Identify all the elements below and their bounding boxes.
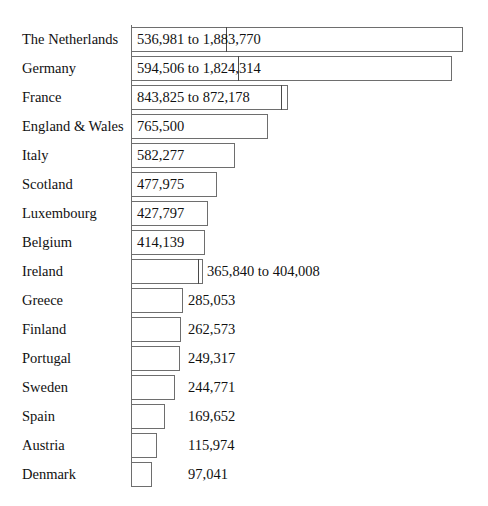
value-label: 97,041 (188, 460, 228, 489)
chart-row: Ireland365,840 to 404,008 (0, 257, 488, 286)
bar[interactable] (131, 433, 157, 458)
category-label: Belgium (22, 228, 126, 257)
chart-row: Sweden244,771 (0, 373, 488, 402)
chart-row: Spain169,652 (0, 402, 488, 431)
bar-chart: The Netherlands536,981 to 1,883,770Germa… (0, 0, 488, 506)
bar[interactable] (131, 404, 165, 429)
value-label: 582,277 (137, 141, 184, 170)
chart-row: France843,825 to 872,178 (0, 83, 488, 112)
bar-range-lower-tick (198, 259, 199, 284)
value-label: 414,139 (137, 228, 184, 257)
bar[interactable] (131, 462, 152, 487)
bar[interactable] (131, 375, 175, 400)
category-label: Finland (22, 315, 126, 344)
chart-row: Scotland477,975 (0, 170, 488, 199)
category-label: Italy (22, 141, 126, 170)
bar[interactable] (131, 317, 181, 342)
bar[interactable] (131, 346, 180, 371)
category-label: Sweden (22, 373, 126, 402)
chart-row: Luxembourg427,797 (0, 199, 488, 228)
chart-row: Portugal249,317 (0, 344, 488, 373)
category-label: The Netherlands (22, 25, 126, 54)
category-label: Austria (22, 431, 126, 460)
category-label: England & Wales (22, 112, 126, 141)
chart-row: Denmark97,041 (0, 460, 488, 489)
category-label: Portugal (22, 344, 126, 373)
value-label: 477,975 (137, 170, 184, 199)
chart-row: The Netherlands536,981 to 1,883,770 (0, 25, 488, 54)
value-label: 765,500 (137, 112, 184, 141)
value-label: 115,974 (188, 431, 235, 460)
value-label: 262,573 (188, 315, 235, 344)
value-label: 249,317 (188, 344, 235, 373)
chart-row: England & Wales765,500 (0, 112, 488, 141)
chart-row: Belgium414,139 (0, 228, 488, 257)
category-label: Scotland (22, 170, 126, 199)
bar[interactable] (131, 288, 183, 313)
value-label: 169,652 (188, 402, 235, 431)
chart-row: Greece285,053 (0, 286, 488, 315)
value-label: 365,840 to 404,008 (207, 257, 320, 286)
category-label: Greece (22, 286, 126, 315)
category-label: Luxembourg (22, 199, 126, 228)
category-label: Denmark (22, 460, 126, 489)
value-label: 536,981 to 1,883,770 (137, 25, 261, 54)
value-label: 244,771 (188, 373, 235, 402)
value-label: 843,825 to 872,178 (137, 83, 250, 112)
category-label: Spain (22, 402, 126, 431)
bar[interactable] (131, 259, 203, 284)
chart-row: Austria115,974 (0, 431, 488, 460)
value-label: 427,797 (137, 199, 184, 228)
bar-range-lower-tick (281, 85, 282, 110)
chart-row: Finland262,573 (0, 315, 488, 344)
category-label: France (22, 83, 126, 112)
category-label: Germany (22, 54, 126, 83)
value-label: 285,053 (188, 286, 235, 315)
chart-row: Germany594,506 to 1,824,314 (0, 54, 488, 83)
value-label: 594,506 to 1,824,314 (137, 54, 261, 83)
category-label: Ireland (22, 257, 126, 286)
chart-row: Italy582,277 (0, 141, 488, 170)
